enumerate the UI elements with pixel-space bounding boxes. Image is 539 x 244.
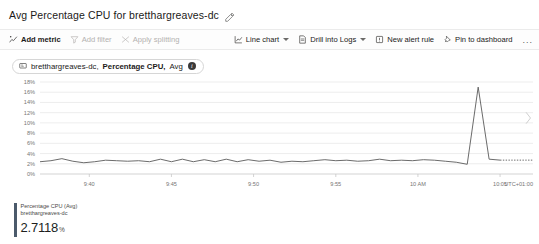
svg-text:14%: 14% [24, 99, 35, 105]
chart-legend: Percentage CPU (Avg) bretthargreaves-dc … [0, 199, 539, 237]
svg-text:8%: 8% [27, 130, 35, 136]
line-chart-icon [234, 35, 243, 44]
logs-icon [298, 35, 307, 44]
apply-splitting-button[interactable]: Apply splitting [121, 35, 180, 44]
drill-into-logs-button[interactable]: Drill into Logs [298, 35, 366, 44]
svg-text:4%: 4% [27, 151, 35, 157]
new-alert-rule-button[interactable]: New alert rule [375, 35, 434, 44]
svg-text:9:55: 9:55 [330, 181, 341, 187]
resource-icon [19, 62, 27, 70]
svg-text:16%: 16% [24, 89, 35, 95]
svg-text:9:40: 9:40 [84, 181, 95, 187]
pin-to-dashboard-label: Pin to dashboard [455, 36, 512, 44]
legend-text-group: Percentage CPU (Avg) bretthargreaves-dc … [21, 203, 78, 237]
legend-color-swatch [14, 203, 17, 237]
toolbar-left-group: Add metric Add filter Apply splitting [9, 35, 180, 44]
add-filter-label: Add filter [82, 36, 112, 44]
metric-pill-aggregation: Avg [169, 62, 182, 71]
svg-text:9:50: 9:50 [248, 181, 259, 187]
svg-text:18%: 18% [24, 79, 35, 85]
line-chart-button[interactable]: Line chart [234, 35, 289, 44]
legend-value: 2.7118 [21, 220, 59, 235]
alert-icon [375, 35, 384, 44]
legend-unit: % [59, 226, 65, 233]
filter-icon [70, 35, 79, 44]
svg-text:6%: 6% [27, 140, 35, 146]
svg-text:2%: 2% [27, 161, 35, 167]
svg-text:10 AM: 10 AM [410, 181, 426, 187]
legend-value-row: 2.7118% [21, 217, 78, 237]
svg-text:0%: 0% [27, 171, 35, 177]
chart-area[interactable]: 0%2%4%6%8%10%12%14%16%18% 9:409:459:509:… [0, 74, 539, 199]
drill-into-logs-label: Drill into Logs [310, 36, 356, 44]
toolbar-right-group: Line chart Drill into Logs New alert rul… [234, 35, 533, 45]
page-title: Avg Percentage CPU for bretthargreaves-d… [9, 9, 219, 21]
pin-to-dashboard-button[interactable]: Pin to dashboard [443, 35, 512, 44]
svg-text:10%: 10% [24, 120, 35, 126]
pin-icon [443, 35, 452, 44]
chevron-right-icon[interactable] [523, 110, 533, 126]
new-alert-rule-label: New alert rule [387, 36, 434, 44]
series-line-percentage-cpu [40, 87, 500, 164]
legend-resource-name: bretthargreaves-dc [21, 210, 78, 217]
x-axis-tick-labels: 9:409:459:509:5510 AM10:05 [84, 181, 507, 187]
chevron-down-icon[interactable] [283, 38, 289, 41]
add-metric-label: Add metric [21, 36, 61, 44]
metric-pill-resource: bretthargreaves-dc, [31, 62, 99, 71]
legend-metric-name: Percentage CPU (Avg) [21, 203, 78, 210]
line-chart-plot[interactable]: 0%2%4%6%8%10%12%14%16%18% 9:409:459:509:… [0, 74, 539, 199]
svg-text:9:45: 9:45 [166, 181, 177, 187]
metric-pill-row: bretthargreaves-dc, Percentage CPU, Avg … [0, 50, 539, 74]
metric-pill-metric: Percentage CPU, [103, 62, 166, 71]
svg-text:12%: 12% [24, 110, 35, 116]
splitting-icon [121, 35, 130, 44]
line-chart-label: Line chart [246, 36, 279, 44]
apply-splitting-label: Apply splitting [133, 36, 180, 44]
chart-toolbar: Add metric Add filter Apply splitting [0, 29, 539, 50]
add-metric-icon [9, 35, 18, 44]
chevron-down-icon[interactable] [360, 38, 366, 41]
timezone-label: UTC+01:00 [504, 181, 533, 187]
chart-title-row: Avg Percentage CPU for bretthargreaves-d… [0, 0, 539, 23]
pencil-icon[interactable] [224, 9, 235, 20]
x-axis-tick-marks [89, 174, 500, 177]
y-axis-tick-labels: 0%2%4%6%8%10%12%14%16%18% [24, 79, 35, 177]
metric-pill[interactable]: bretthargreaves-dc, Percentage CPU, Avg … [12, 59, 204, 74]
more-options-button[interactable]: ... [521, 35, 533, 45]
info-icon[interactable]: i [188, 62, 196, 70]
add-metric-button[interactable]: Add metric [9, 35, 61, 44]
add-filter-button[interactable]: Add filter [70, 35, 112, 44]
